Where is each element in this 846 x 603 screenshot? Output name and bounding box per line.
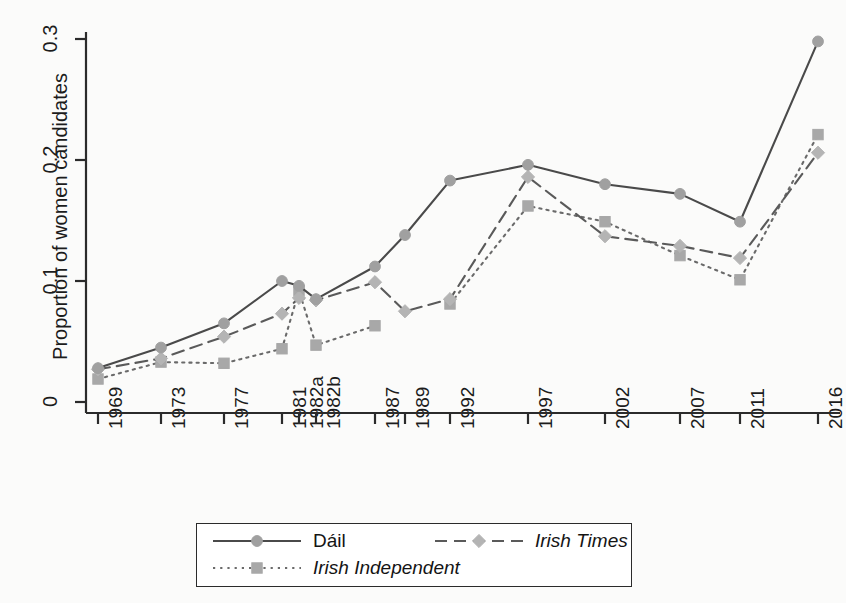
legend-swatch-dail — [211, 530, 303, 552]
data-point — [219, 318, 230, 329]
data-point — [445, 175, 456, 186]
legend-marker — [252, 563, 262, 573]
legend-label-irish-independent: Irish Independent — [313, 557, 460, 579]
chart-legend: Dáil Irish Times Irish Independent — [196, 523, 632, 587]
data-point — [813, 129, 823, 139]
legend-label-irish-times: Irish Times — [535, 530, 628, 552]
data-point — [277, 276, 288, 287]
data-point — [277, 344, 287, 354]
legend-item-irish-independent: Irish Independent — [211, 557, 460, 579]
data-point — [813, 36, 824, 47]
data-point — [311, 294, 322, 305]
data-point — [311, 340, 321, 350]
data-point — [600, 217, 610, 227]
legend-label-dail: Dáil — [313, 530, 346, 552]
data-point — [811, 146, 824, 159]
data-point — [370, 321, 380, 331]
data-point — [400, 230, 411, 241]
legend-item-irish-times: Irish Times — [433, 530, 628, 552]
chart-figure: Proportion of women candidates 00.10.20.… — [0, 0, 846, 603]
data-point — [600, 179, 611, 190]
data-point — [368, 276, 381, 289]
legend-swatch-irish-times — [433, 530, 525, 552]
legend-item-dail: Dáil — [211, 530, 346, 552]
data-point — [294, 280, 305, 291]
plot-area — [0, 0, 846, 603]
data-point — [370, 261, 381, 272]
data-point — [156, 342, 167, 353]
data-point — [219, 358, 229, 368]
data-point — [93, 363, 104, 374]
legend-swatch-irish-independent — [211, 557, 303, 579]
series-irish-times — [91, 146, 824, 376]
data-point — [735, 275, 745, 285]
series-irish-independent — [93, 129, 823, 384]
legend-marker — [252, 536, 263, 547]
series-d-il — [93, 36, 824, 374]
legend-marker — [472, 534, 485, 547]
data-point — [217, 330, 230, 343]
data-point — [735, 216, 746, 227]
data-point — [523, 201, 533, 211]
data-point — [675, 188, 686, 199]
data-point — [523, 159, 534, 170]
